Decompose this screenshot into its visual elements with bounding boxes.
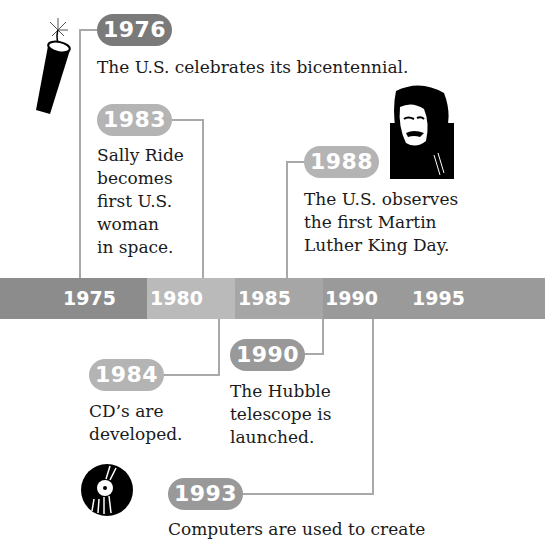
tick-1985: 1985 (238, 278, 291, 319)
connector-1976 (79, 30, 81, 278)
year-pill-1976: 1976 (97, 14, 172, 46)
text-line: first U.S. (97, 190, 184, 213)
text-line: Luther King Day. (304, 234, 458, 257)
connector-1983-h (170, 119, 204, 121)
event-text-1984: CD’s are developed. (89, 400, 183, 446)
tick-1975: 1975 (63, 278, 116, 319)
connector-1993 (372, 319, 374, 495)
connector-1990-h (302, 353, 324, 355)
event-text-1976: The U.S. celebrates its bicentennial. (97, 56, 408, 79)
year-pill-1984: 1984 (89, 359, 164, 391)
text-line: telescope is (230, 403, 331, 426)
text-line: the first Martin (304, 211, 458, 234)
connector-1988-h (286, 161, 306, 163)
compact-disc-icon (80, 463, 134, 517)
tick-1980: 1980 (150, 278, 203, 319)
text-line: developed. (89, 423, 183, 446)
text-line: CD’s are (89, 400, 183, 423)
event-text-1983: Sally Ride becomes first U.S. woman in s… (97, 144, 184, 259)
connector-1983 (202, 119, 204, 278)
connector-1984 (218, 319, 220, 375)
event-text-1990: The Hubble telescope is launched. (230, 380, 331, 449)
connector-1984-h (160, 374, 220, 376)
text-line: The Hubble (230, 380, 331, 403)
connector-1988 (286, 162, 288, 278)
tick-1990: 1990 (325, 278, 378, 319)
event-text-1993: Computers are used to create (168, 518, 425, 541)
text-line: launched. (230, 426, 331, 449)
year-pill-1988: 1988 (304, 146, 379, 178)
timeline-bar: 1975 1980 1985 1990 1995 (0, 278, 545, 319)
year-pill-1993: 1993 (168, 478, 243, 510)
text-line: in space. (97, 236, 184, 259)
text-line: Sally Ride (97, 144, 184, 167)
firecracker-icon (28, 16, 73, 116)
year-pill-1983: 1983 (97, 104, 172, 136)
tick-1995: 1995 (412, 278, 465, 319)
martin-luther-king-portrait (390, 83, 454, 179)
text-line: The U.S. observes (304, 188, 458, 211)
connector-1976-h (79, 29, 99, 31)
text-line: woman (97, 213, 184, 236)
connector-1993-h (240, 493, 374, 495)
year-pill-1990: 1990 (230, 339, 305, 371)
connector-1990 (322, 319, 324, 355)
text-line: becomes (97, 167, 184, 190)
event-text-1988: The U.S. observes the first Martin Luthe… (304, 188, 458, 257)
